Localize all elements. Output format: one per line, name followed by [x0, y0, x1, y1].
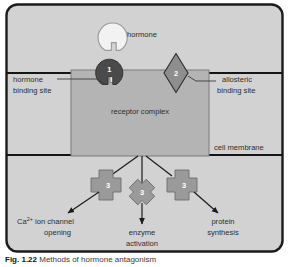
outcome-calcium-line2: opening — [44, 228, 71, 237]
cell-membrane-label: cell membrane — [214, 143, 264, 152]
hormone-binding-site-label-line1: hormone — [13, 75, 43, 84]
figure-caption-text: Methods of hormone antagonism — [39, 255, 156, 264]
antagonist-3-right-number: 3 — [182, 181, 186, 190]
outcome-protein-line2: synthesis — [207, 228, 239, 237]
figure-caption-number: Fig. 1.22 — [5, 255, 37, 264]
figure-page: hormone 1 2 receptor complex cell membra… — [0, 0, 289, 267]
receptor-complex-label: receptor complex — [111, 107, 169, 116]
outcome-calcium-line1: Ca2+ ion channel — [17, 216, 74, 226]
hormone-antagonism-diagram: hormone 1 2 receptor complex cell membra… — [0, 0, 289, 267]
outcome-enzyme-line1: enzyme — [129, 228, 156, 237]
antagonist-3-left-number: 3 — [106, 181, 110, 190]
figure-caption: Fig. 1.22 Methods of hormone antagonism — [5, 255, 285, 264]
hormone-binding-site-label-line2: binding site — [13, 86, 51, 95]
hormone-label: hormone — [127, 30, 157, 39]
allosteric-binding-site-label-line1: allosteric — [222, 75, 252, 84]
outcome-enzyme-line2: activation — [126, 239, 158, 248]
outcome-protein-line1: protein — [211, 217, 234, 226]
allosteric-binding-site-label-line2: binding site — [217, 86, 255, 95]
outcome-calcium-rest: ion channel — [33, 217, 74, 226]
antagonist-1-number: 1 — [107, 65, 111, 74]
antagonist-2-number: 2 — [174, 69, 178, 78]
antagonist-3-middle-number: 3 — [140, 188, 144, 197]
